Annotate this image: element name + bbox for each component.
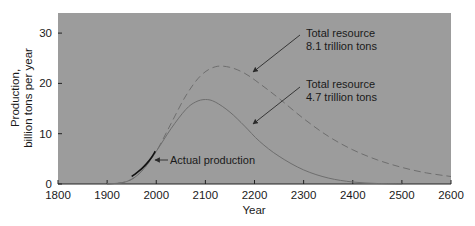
y-tick-label: 30: [39, 27, 52, 39]
y-tick-label: 0: [46, 178, 52, 190]
annotation-4-7-line1: Total resource: [306, 78, 375, 90]
x-tick-label: 2400: [340, 189, 366, 201]
x-tick-label: 2500: [389, 189, 415, 201]
x-tick-label: 2600: [438, 189, 464, 201]
y-axis-title-line2: billion tons per year: [22, 48, 34, 148]
chart: 180019002000210022002300240025002600 010…: [0, 0, 475, 226]
annotation-actual: Actual production: [155, 154, 255, 166]
x-tick-label: 2300: [291, 189, 317, 201]
annotation-actual-label: Actual production: [170, 154, 255, 166]
y-axis-title: Production, billion tons per year: [9, 48, 34, 148]
annotation-4-7-line2: 4.7 trillion tons: [306, 91, 377, 103]
y-tick-label: 20: [39, 77, 52, 89]
x-tick-label: 2100: [193, 189, 219, 201]
x-tick-label: 1800: [45, 189, 71, 201]
y-tick-label: 10: [39, 128, 52, 140]
x-tick-label: 1900: [94, 189, 120, 201]
x-tick-label: 2200: [242, 189, 268, 201]
annotation-8-1-line2: 8.1 trillion tons: [306, 40, 377, 52]
annotation-8-1-line1: Total resource: [306, 27, 375, 39]
x-tick-label: 2000: [143, 189, 169, 201]
x-axis-title: Year: [242, 204, 265, 216]
y-axis-title-line1: Production,: [9, 69, 21, 127]
